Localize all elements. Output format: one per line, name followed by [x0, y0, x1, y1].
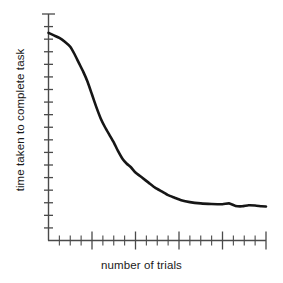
axes-group [48, 14, 266, 241]
learning-curve-figure: time taken to complete task number of tr… [0, 0, 283, 283]
x-axis-label: number of trials [0, 259, 283, 271]
y-axis-label: time taken to complete task [14, 49, 26, 192]
chart-plot-area [0, 0, 283, 283]
data-curve-line [49, 33, 267, 207]
y-axis-label-container: time taken to complete task [0, 0, 40, 240]
